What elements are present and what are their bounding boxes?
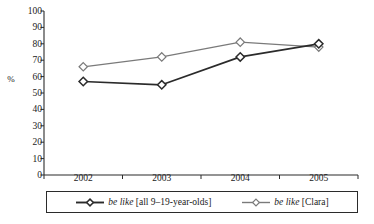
legend-entry[interactable]: be like [Clara] bbox=[241, 197, 328, 208]
legend-label-italic: be like bbox=[274, 197, 299, 207]
data-point-marker bbox=[158, 53, 166, 61]
data-point-marker bbox=[79, 77, 87, 85]
y-tick-label: 0 bbox=[20, 170, 42, 180]
line-chart: % 0102030405060708090100 200220032004200… bbox=[0, 0, 374, 224]
legend-label: be like [all 9–19-year-olds] bbox=[108, 197, 211, 208]
y-tick-label: 80 bbox=[20, 39, 42, 49]
legend-label-italic: be like bbox=[108, 197, 133, 207]
y-axis-tick-labels: 0102030405060708090100 bbox=[16, 0, 42, 224]
legend-marker-icon bbox=[75, 197, 105, 208]
y-tick-label: 50 bbox=[20, 88, 42, 98]
y-tick-label: 40 bbox=[20, 104, 42, 114]
y-tick-label: 60 bbox=[20, 72, 42, 82]
x-tick-label: 2002 bbox=[53, 173, 113, 184]
x-tick-label: 2005 bbox=[289, 173, 349, 184]
legend-label-plain: [all 9–19-year-olds] bbox=[133, 197, 211, 207]
y-tick-label: 10 bbox=[20, 154, 42, 164]
data-point-marker bbox=[79, 63, 87, 71]
legend-label-plain: [Clara] bbox=[299, 197, 328, 207]
y-tick-label: 20 bbox=[20, 137, 42, 147]
legend-marker-icon bbox=[241, 197, 271, 208]
data-point-marker bbox=[158, 81, 166, 89]
x-tick-label: 2003 bbox=[132, 173, 192, 184]
y-tick-label: 90 bbox=[20, 22, 42, 32]
data-point-marker bbox=[236, 53, 244, 61]
legend-label: be like [Clara] bbox=[274, 197, 328, 208]
x-tick-label: 2004 bbox=[210, 173, 270, 184]
y-tick-label: 30 bbox=[20, 121, 42, 131]
series-line bbox=[83, 42, 318, 67]
chart-legend: be like [all 9–19-year-olds]be like [Cla… bbox=[46, 191, 358, 213]
data-point-marker bbox=[236, 38, 244, 46]
y-tick-label: 100 bbox=[20, 6, 42, 16]
y-tick-label: 70 bbox=[20, 55, 42, 65]
legend-entry[interactable]: be like [all 9–19-year-olds] bbox=[75, 197, 211, 208]
